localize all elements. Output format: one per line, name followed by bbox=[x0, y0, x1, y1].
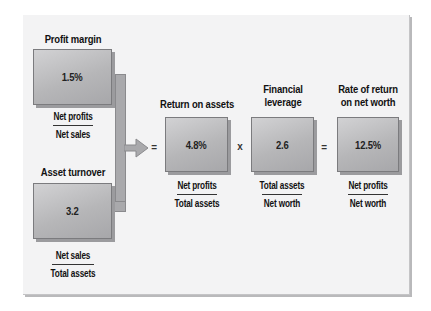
fraction-bar bbox=[52, 264, 94, 265]
return-on-assets-denominator: Total assets bbox=[173, 198, 221, 210]
rate-of-return-box: 12.5% bbox=[337, 117, 399, 172]
rate-of-return-value: 12.5% bbox=[355, 139, 381, 151]
financial-leverage-numerator: Total assets bbox=[258, 180, 306, 192]
fraction-bar bbox=[177, 194, 217, 195]
profit-margin-numerator: Net profits bbox=[51, 111, 95, 123]
equals-operator: = bbox=[321, 141, 327, 153]
return-on-assets-value: 4.8% bbox=[186, 139, 207, 151]
fraction-bar bbox=[53, 125, 93, 126]
financial-leverage-title-line2: leverage bbox=[255, 96, 312, 109]
profit-margin-title: Profit margin bbox=[39, 33, 108, 46]
return-on-assets-box: 4.8% bbox=[165, 117, 228, 172]
connector-bottom-stub bbox=[112, 201, 125, 212]
rate-of-return-title: Rate of return on net worth bbox=[334, 83, 403, 109]
financial-leverage-value: 2.6 bbox=[276, 139, 289, 151]
rate-of-return-numerator: Net profits bbox=[344, 180, 392, 192]
rate-of-return-title-line1: Rate of return bbox=[334, 83, 403, 96]
multiply-operator: x bbox=[237, 140, 243, 152]
profit-margin-box: 1.5% bbox=[33, 49, 112, 105]
return-on-assets-numerator: Net profits bbox=[173, 180, 221, 192]
financial-leverage-box: 2.6 bbox=[251, 117, 314, 172]
asset-turnover-value: 3.2 bbox=[66, 205, 79, 217]
financial-leverage-denominator: Net worth bbox=[258, 198, 306, 210]
arrow-right-icon bbox=[124, 138, 150, 158]
profit-margin-denominator: Net sales bbox=[51, 129, 95, 141]
profit-margin-formula: Net profits Net sales bbox=[46, 111, 100, 141]
rate-of-return-formula: Net profits Net worth bbox=[339, 180, 397, 210]
asset-turnover-numerator: Net sales bbox=[49, 250, 97, 262]
asset-turnover-box: 3.2 bbox=[33, 183, 112, 239]
financial-leverage-formula: Total assets Net worth bbox=[253, 180, 311, 210]
return-on-assets-formula: Net profits Total assets bbox=[168, 180, 226, 210]
asset-turnover-formula: Net sales Total assets bbox=[44, 250, 102, 280]
rate-of-return-title-line2: on net worth bbox=[334, 96, 403, 109]
financial-leverage-title-line1: Financial bbox=[255, 83, 312, 96]
fraction-bar bbox=[262, 194, 302, 195]
rate-of-return-denominator: Net worth bbox=[344, 198, 392, 210]
financial-leverage-title: Financial leverage bbox=[255, 83, 312, 109]
fraction-bar bbox=[348, 194, 388, 195]
profit-margin-value: 1.5% bbox=[62, 71, 83, 83]
asset-turnover-denominator: Total assets bbox=[49, 268, 97, 280]
asset-turnover-title: Asset turnover bbox=[34, 166, 111, 179]
return-on-assets-title: Return on assets bbox=[157, 98, 238, 111]
equals-operator: = bbox=[151, 141, 157, 153]
